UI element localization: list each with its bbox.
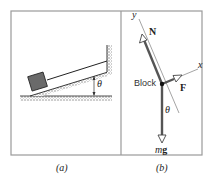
tension-force-label: F [180,83,186,93]
y-axis-label: y [132,10,136,20]
caption-a: (a) [56,163,68,173]
weight-label: mg [155,145,167,155]
y-axis [139,19,179,113]
x-axis-label: x [198,60,202,70]
wall-hatch [107,45,112,75]
normal-force-label: N [149,27,156,37]
weight-arrowhead [158,135,166,143]
block-label: Block [134,79,156,88]
angle-label-b: θ [165,105,170,115]
angle-label-a: θ [97,79,102,89]
weight-label-g: g [162,144,167,155]
block-point [160,82,164,86]
caption-b: (b) [156,163,168,173]
panel-a [20,45,112,101]
ground-hatch [20,96,112,101]
tension-force-arrowhead [173,75,182,82]
block [28,72,48,91]
angle-arrow-bottom [93,92,96,96]
